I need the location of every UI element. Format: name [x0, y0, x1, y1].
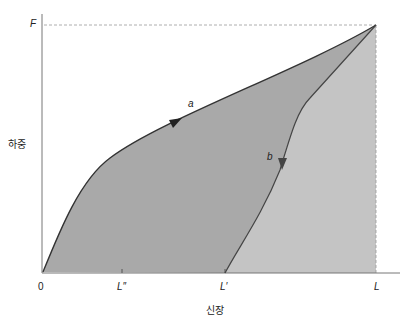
l-label: L [374, 281, 380, 292]
curve-a-label: a [188, 98, 194, 109]
l1-label: L′ [220, 281, 227, 292]
origin-label: 0 [38, 281, 44, 292]
l2-label: L″ [117, 281, 126, 292]
curve-b-label: b [267, 151, 273, 162]
x-axis-label: 신장 [206, 302, 224, 317]
f-label: F [30, 18, 36, 29]
load-extension-diagram [0, 0, 411, 323]
y-axis-label: 하중 [8, 136, 26, 151]
